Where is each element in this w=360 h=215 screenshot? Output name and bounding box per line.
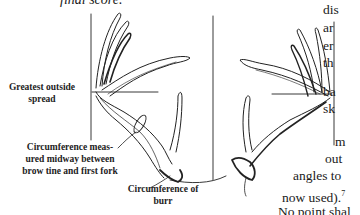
body-text-fragment: dis	[323, 2, 339, 18]
label-line: burr	[120, 195, 206, 207]
label-line: Circumference of	[120, 183, 206, 195]
label-circumference-burr: Circumference of burr	[120, 183, 206, 207]
label-circumference-midway: Circumference meas- ured midway between …	[12, 141, 128, 177]
label-line: ured midway between	[12, 153, 128, 165]
body-text-fragment: th	[323, 55, 334, 71]
body-text-fragment: No point shal	[278, 204, 351, 215]
body-text-fragment: ar	[323, 20, 334, 36]
body-text-fragment: ba	[323, 84, 336, 100]
footnote-marker: 7	[341, 189, 345, 198]
body-text-fragment: sk	[323, 101, 335, 117]
body-text-fragment: now used).7	[282, 186, 345, 206]
body-text-fragment: out	[325, 151, 342, 167]
label-line: brow tine and first fork	[12, 165, 128, 177]
label-greatest-spread: Greatest outside spread	[0, 81, 84, 105]
body-text-fragment: angles to	[293, 168, 341, 184]
body-text-fragment: er	[323, 38, 334, 54]
body-text: now used).	[282, 190, 341, 205]
body-text-fragment: m	[335, 134, 346, 150]
label-line: Circumference meas-	[12, 141, 128, 153]
